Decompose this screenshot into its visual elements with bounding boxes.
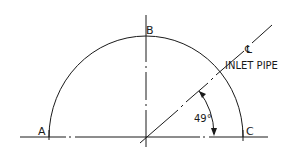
angle-label: 49° (194, 113, 212, 124)
label-c: C (246, 125, 254, 138)
arrow-head-lower-icon (211, 128, 217, 136)
label-a: A (38, 125, 46, 138)
inlet-pipe-label: INLET PIPE (225, 60, 278, 71)
arrow-head-upper-icon (199, 91, 206, 98)
label-b: B (146, 24, 154, 37)
centerline-symbol-icon: ℄ (244, 43, 252, 56)
drawing-canvas: A B C ℄ INLET PIPE 49° (0, 0, 297, 160)
